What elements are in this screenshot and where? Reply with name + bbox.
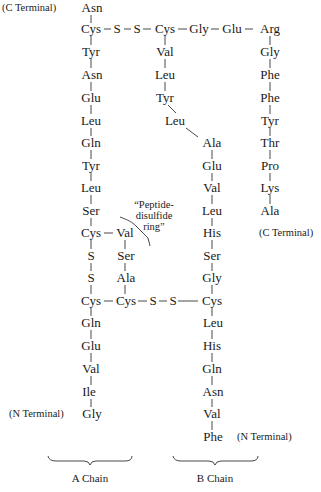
- residue-b-leu-diag: Leu: [165, 114, 185, 128]
- residue-b-leu-top: Leu: [155, 68, 175, 82]
- residue-b-val-top: Val: [156, 45, 173, 59]
- residue-b-val-2: Val: [203, 407, 220, 421]
- residue-a7: Gln: [81, 136, 101, 150]
- residue-a4: Asn: [82, 68, 103, 82]
- residue-r-tyr: Tyr: [261, 114, 279, 128]
- residue-r-pro: Pro: [261, 159, 279, 173]
- residue-b-gly: Gly: [202, 271, 222, 285]
- residue-a8: Tyr: [82, 159, 100, 173]
- residue-b-glu: Glu: [202, 159, 222, 173]
- residue-a17: Gly: [82, 407, 102, 421]
- residue-b-gln: Gln: [202, 362, 222, 376]
- residue-b-asn: Asn: [203, 385, 224, 399]
- residue-b-glu-top: Glu: [222, 22, 242, 36]
- residue-a2: Cys: [81, 22, 101, 36]
- residue-b-phe: Phe: [203, 430, 223, 444]
- ring-note-line3: ring”: [134, 221, 174, 232]
- residue-a12: Cys: [81, 294, 101, 308]
- residue-r-lys: Lys: [261, 181, 280, 195]
- sulfur-bottom-1: S: [149, 294, 156, 308]
- residue-b-val: Val: [203, 181, 220, 195]
- ring-note-line1: “Peptide-: [134, 199, 174, 210]
- residue-b-leu-2: Leu: [203, 316, 223, 330]
- residue-a14: Glu: [81, 339, 101, 353]
- residue-b-arg: Arg: [260, 22, 280, 36]
- sulfur-top-1: S: [113, 22, 120, 36]
- ring-residue-ala: Ala: [117, 271, 136, 285]
- residue-a9: Leu: [81, 181, 101, 195]
- b-chain-n-terminal-label: (N Terminal): [237, 431, 292, 443]
- ring-residue-cys: Cys: [116, 294, 136, 308]
- residue-b-his: His: [203, 226, 221, 240]
- sulfur-top-2: S: [133, 22, 140, 36]
- residue-a10: Ser: [82, 204, 99, 218]
- residue-b-cys: Cys: [202, 294, 222, 308]
- residue-b-tyr-top: Tyr: [156, 91, 174, 105]
- a-chain-label: A Chain: [72, 472, 108, 484]
- residue-r-ala: Ala: [261, 204, 280, 218]
- residue-a13: Gln: [81, 316, 101, 330]
- a-chain-c-terminal-label: (C Terminal): [2, 2, 56, 14]
- residue-a15: Val: [82, 362, 99, 376]
- residue-r-thr: Thr: [261, 136, 280, 150]
- ring-note: “Peptide- disulfide ring”: [134, 199, 174, 232]
- residue-r-phe: Phe: [260, 68, 280, 82]
- residue-a5: Glu: [81, 91, 101, 105]
- residue-b-ser: Ser: [203, 249, 220, 263]
- residue-b-ala: Ala: [203, 136, 222, 150]
- b-chain-c-terminal-label: (C Terminal): [259, 227, 313, 239]
- sulfur-a2: S: [87, 271, 94, 285]
- residue-r-gly: Gly: [260, 45, 280, 59]
- b-chain-label: B Chain: [197, 472, 233, 484]
- residue-b-gly-top: Gly: [189, 22, 209, 36]
- residue-a16: Ile: [82, 385, 96, 399]
- residue-a11: Cys: [81, 226, 101, 240]
- ring-residue-ser: Ser: [117, 249, 134, 263]
- residue-a3: Tyr: [82, 45, 100, 59]
- residue-b-cys-top: Cys: [155, 22, 175, 36]
- ring-note-line2: disulfide: [134, 210, 174, 221]
- a-chain-n-terminal-label: (N Terminal): [9, 408, 64, 420]
- residue-a6: Leu: [81, 114, 101, 128]
- residue-a1: Asn: [82, 1, 103, 15]
- sulfur-a1: S: [87, 249, 94, 263]
- residue-b-his-2: His: [203, 339, 221, 353]
- residue-b-leu: Leu: [202, 204, 222, 218]
- ring-residue-val: Val: [116, 226, 133, 240]
- residue-r-phe-2: Phe: [260, 91, 280, 105]
- sulfur-bottom-2: S: [169, 294, 176, 308]
